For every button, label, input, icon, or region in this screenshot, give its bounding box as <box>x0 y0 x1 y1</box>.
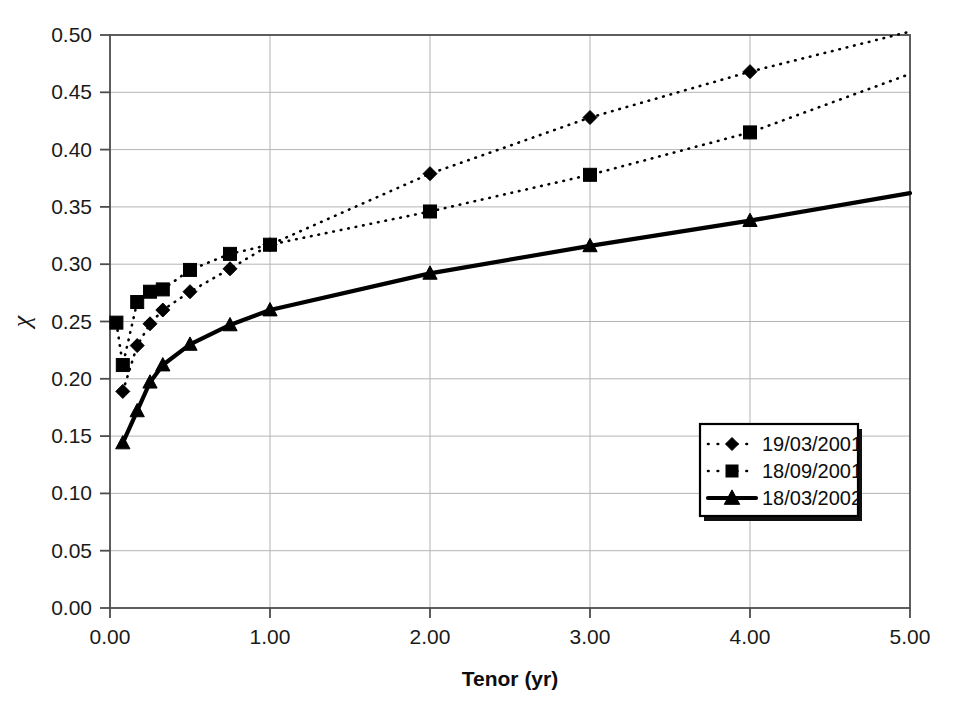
x-tick-label: 1.00 <box>250 625 291 648</box>
x-tick-label: 2.00 <box>410 625 451 648</box>
x-tick-label: 0.00 <box>90 625 131 648</box>
y-tick-label: 0.30 <box>51 252 92 275</box>
chart-legend: 19/03/200118/09/200118/03/2002 <box>700 424 862 521</box>
data-point-square <box>584 168 597 181</box>
chart-figure: 0.000.050.100.150.200.250.300.350.400.45… <box>0 0 955 703</box>
data-point-square <box>224 247 237 260</box>
data-point-square <box>264 238 277 251</box>
data-point-triangle <box>116 435 130 448</box>
y-tick-label: 0.05 <box>51 539 92 562</box>
data-point-diamond <box>130 339 144 353</box>
y-tick-label: 0.25 <box>51 310 92 333</box>
data-series <box>110 32 910 449</box>
data-point-diamond <box>143 317 157 331</box>
data-point-square <box>131 296 144 309</box>
data-point-diamond <box>183 285 197 299</box>
x-tick-label: 4.00 <box>730 625 771 648</box>
data-point-square <box>156 283 169 296</box>
legend-marker-square <box>726 465 738 477</box>
axis-ticks <box>100 35 910 618</box>
data-point-square <box>744 126 757 139</box>
legend-label: 19/03/2001 <box>762 433 862 455</box>
data-point-diamond <box>116 384 130 398</box>
series-line-solid <box>123 193 910 443</box>
y-tick-label: 0.45 <box>51 80 92 103</box>
data-point-square <box>424 205 437 218</box>
series-18-03-2002 <box>116 193 910 449</box>
y-tick-label: 0.00 <box>51 596 92 619</box>
data-point-diamond <box>583 111 597 125</box>
x-tick-label: 5.00 <box>890 625 931 648</box>
y-tick-label: 0.15 <box>51 424 92 447</box>
data-point-square <box>184 263 197 276</box>
x-tick-label: 3.00 <box>570 625 611 648</box>
y-tick-label: 0.10 <box>51 481 92 504</box>
y-axis-title: χ <box>7 315 36 330</box>
x-axis-title: Tenor (yr) <box>462 667 558 690</box>
data-point-triangle <box>130 403 144 416</box>
data-point-square <box>144 285 157 298</box>
legend-label: 18/09/2001 <box>762 460 862 482</box>
data-point-diamond <box>743 65 757 79</box>
y-tick-label: 0.50 <box>51 23 92 46</box>
chart-canvas: 0.000.050.100.150.200.250.300.350.400.45… <box>0 0 955 703</box>
y-tick-label: 0.40 <box>51 138 92 161</box>
y-tick-label: 0.35 <box>51 195 92 218</box>
data-point-square <box>110 316 123 329</box>
legend-label: 18/03/2002 <box>762 487 862 509</box>
y-tick-label: 0.20 <box>51 367 92 390</box>
data-point-square <box>116 359 129 372</box>
axis-tick-labels: 0.000.050.100.150.200.250.300.350.400.45… <box>51 23 930 648</box>
data-point-diamond <box>423 167 437 181</box>
